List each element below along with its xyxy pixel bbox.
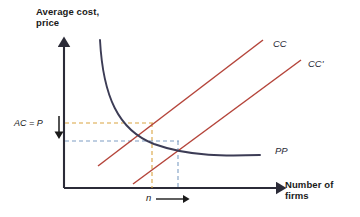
x-axis-title: Number of firms <box>285 179 333 201</box>
curve-cc-prime <box>133 60 301 184</box>
curve-label-cc-prime: CC' <box>308 58 324 69</box>
y-axis-title: Average cost, price <box>36 6 99 28</box>
curve-label-cc: CC <box>273 38 287 49</box>
curve-cc <box>98 40 263 166</box>
ac-equals-p-label: AC = P <box>14 118 43 129</box>
curve-label-pp: PP <box>275 145 288 156</box>
curve-pp <box>100 40 260 156</box>
economics-diagram: Average cost, price Number of firms CC C… <box>0 0 360 217</box>
n-symbol-label: n <box>146 192 151 203</box>
